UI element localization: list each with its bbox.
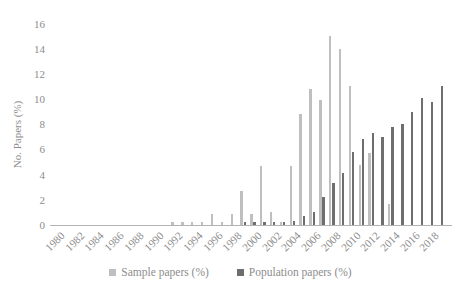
bar-population-2011: [362, 139, 364, 225]
bar-sample-2010: [349, 86, 351, 225]
x-tick-label: 2008: [319, 230, 342, 253]
bar-sample-2014: [388, 204, 390, 225]
bar-population-2009: [342, 173, 344, 225]
bar-population-2013: [381, 137, 383, 225]
bar-population-2016: [411, 112, 413, 225]
legend-item-sample: Sample papers (%): [109, 266, 209, 278]
x-tick-label: 1988: [122, 230, 145, 253]
y-tick-label: 8: [15, 119, 45, 130]
x-tick-label: 2018: [418, 230, 441, 253]
bar-population-2014: [391, 127, 393, 225]
bar-sample-1999: [240, 191, 242, 225]
y-tick-label: 6: [15, 144, 45, 155]
x-tick-label: 2016: [398, 230, 421, 253]
x-tick-label: 2012: [359, 230, 382, 253]
bar-population-2012: [372, 133, 374, 225]
legend: Sample papers (%) Population papers (%): [0, 266, 461, 278]
legend-label-sample: Sample papers (%): [121, 266, 209, 278]
x-tick-label: 2010: [339, 230, 362, 253]
x-tick-label: 1992: [162, 230, 185, 253]
bar-sample-2000: [250, 214, 252, 225]
x-tick-label: 1986: [103, 230, 126, 253]
bar-chart: No. Papers (%) Sample papers (%) Populat…: [0, 0, 461, 297]
bar-population-2003: [283, 222, 285, 225]
sample-swatch-icon: [109, 269, 116, 276]
x-tick-label: 2004: [280, 230, 303, 253]
bar-sample-2009: [339, 49, 341, 225]
x-tick-label: 1984: [83, 230, 106, 253]
bar-population-2008: [332, 183, 334, 225]
legend-item-population: Population papers (%): [237, 266, 352, 278]
bar-population-2001: [263, 222, 265, 225]
y-tick-label: 14: [15, 44, 45, 55]
bar-sample-2011: [359, 165, 361, 225]
x-tick-label: 2006: [300, 230, 323, 253]
y-tick-label: 16: [15, 19, 45, 30]
bar-sample-1992: [171, 222, 173, 225]
x-tick-label: 1998: [221, 230, 244, 253]
bar-sample-2003: [280, 222, 282, 225]
bar-sample-2002: [270, 212, 272, 225]
bar-population-1999: [244, 222, 246, 225]
bar-sample-1994: [191, 222, 193, 225]
x-tick-label: 2000: [240, 230, 263, 253]
x-tick-label: 1994: [181, 230, 204, 253]
bar-population-2018: [431, 102, 433, 225]
bar-population-2015: [401, 124, 403, 225]
y-tick-label: 0: [15, 220, 45, 231]
x-tick-label: 1980: [43, 230, 66, 253]
y-tick-label: 12: [15, 69, 45, 80]
x-tick-label: 1996: [201, 230, 224, 253]
population-swatch-icon: [237, 269, 244, 276]
x-axis-line: [50, 225, 452, 226]
bar-sample-2004: [290, 166, 292, 225]
bar-sample-2001: [260, 166, 262, 225]
bar-sample-1996: [211, 214, 213, 225]
x-tick-label: 2014: [378, 230, 401, 253]
bar-sample-2005: [299, 114, 301, 225]
bar-population-2005: [303, 216, 305, 225]
bar-sample-1997: [221, 222, 223, 225]
bar-sample-2007: [319, 100, 321, 225]
bar-population-2004: [293, 221, 295, 225]
bar-population-2007: [322, 197, 324, 225]
bar-population-2002: [273, 222, 275, 225]
bar-population-2000: [253, 222, 255, 225]
y-tick-label: 2: [15, 195, 45, 206]
bar-population-2010: [352, 152, 354, 225]
y-tick-label: 4: [15, 170, 45, 181]
bar-population-2019: [441, 86, 443, 225]
bar-sample-1993: [181, 222, 183, 225]
x-tick-label: 1990: [142, 230, 165, 253]
bar-population-2017: [421, 98, 423, 225]
legend-label-population: Population papers (%): [249, 266, 352, 278]
bar-population-2006: [313, 212, 315, 225]
bar-sample-2008: [329, 36, 331, 225]
bar-sample-2006: [309, 89, 311, 225]
bar-sample-1995: [201, 222, 203, 225]
y-tick-label: 10: [15, 94, 45, 105]
bar-sample-1998: [231, 214, 233, 225]
bar-sample-2012: [368, 153, 370, 225]
